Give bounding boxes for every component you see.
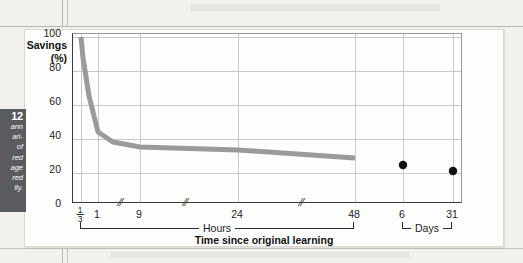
y-axis-title-text: Savings <box>27 39 67 51</box>
page-spine-line <box>67 249 68 263</box>
x-tick-label-48: 48 <box>348 208 360 220</box>
figure-number: 12 <box>0 110 23 122</box>
page-spine-line <box>62 0 63 27</box>
savings-curve-svg <box>73 34 463 204</box>
days-bracket-label: Days <box>411 222 443 234</box>
plot-area <box>72 33 462 203</box>
caption-line: age <box>0 163 23 173</box>
page-bleed-through-top <box>190 4 440 11</box>
caption-line: ari- <box>0 132 23 142</box>
figure-card: Savings (%) 100 80 60 40 20 0 <box>24 29 504 247</box>
caption-line: red <box>0 153 23 163</box>
x-tick-label-31: 31 <box>446 208 458 220</box>
page-spine-line <box>62 249 63 263</box>
scanned-page: Savings (%) 100 80 60 40 20 0 <box>0 0 523 263</box>
savings-curve-line <box>81 37 355 158</box>
page-edge-top <box>0 26 523 27</box>
x-tick-label-6: 6 <box>399 208 405 220</box>
y-tick-label-80: 80 <box>21 61 61 73</box>
days-bracket: Days <box>402 222 452 230</box>
caption-line: lly. <box>0 183 23 193</box>
fraction-one-third: 1 3 <box>77 206 84 223</box>
x-axis-title: Time since original learning <box>25 234 503 246</box>
caption-line: red <box>0 173 23 183</box>
x-tick-label-1: 1 <box>94 208 100 220</box>
page-spine-line <box>67 0 68 27</box>
y-tick-label-60: 60 <box>21 95 61 107</box>
page-bleed-through-bottom <box>110 252 410 258</box>
figure-caption-box: 12 ann ari- of red age red lly. <box>0 109 26 212</box>
x-tick-label-one-third: 1 3 <box>77 206 84 223</box>
caption-line: ann <box>0 122 23 132</box>
caption-line: of <box>0 142 23 152</box>
forgetting-curve-chart: Savings (%) 100 80 60 40 20 0 <box>25 30 503 246</box>
hours-bracket: Hours <box>80 222 354 230</box>
y-tick-label-100: 100 <box>21 27 61 39</box>
x-tick-label-9: 9 <box>136 208 142 220</box>
y-tick-label-40: 40 <box>21 129 61 141</box>
data-point-6-days <box>399 161 407 169</box>
x-tick-label-24: 24 <box>231 208 243 220</box>
y-tick-label-0: 0 <box>21 197 61 209</box>
page-edge-bottom <box>0 248 523 249</box>
data-point-31-days <box>449 167 457 175</box>
y-tick-label-20: 20 <box>21 163 61 175</box>
hours-bracket-label: Hours <box>199 222 235 234</box>
